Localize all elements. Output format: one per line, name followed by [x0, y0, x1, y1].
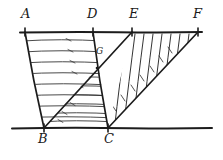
intersection-point-g [96, 67, 99, 70]
hatch-triangle-ecf-ticks [112, 47, 172, 111]
top-parallel-line [20, 32, 202, 33]
geometry-figure: A D E F B C G [0, 0, 223, 160]
vertex-label-b: B [38, 132, 48, 145]
segment-cf [108, 32, 198, 128]
vertex-label-f: F [193, 7, 202, 20]
segment-be [44, 32, 132, 128]
vertex-label-a: A [21, 7, 30, 20]
hatch-parallelogram-ticks [66, 39, 77, 75]
vertex-label-g: G [96, 47, 103, 56]
vertex-ticks [25, 28, 198, 132]
figure-strokes [12, 32, 212, 129]
vertex-label-c: C [104, 132, 114, 145]
segment-ab [25, 32, 44, 128]
bottom-parallel-line [12, 128, 212, 129]
vertex-label-e: E [129, 7, 139, 20]
vertex-label-d: D [87, 7, 97, 20]
